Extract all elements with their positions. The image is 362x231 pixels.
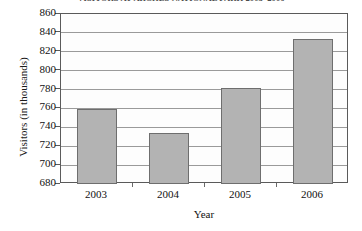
y-tick-label: 720 <box>22 138 56 150</box>
x-tick-mark <box>276 183 277 187</box>
x-tick-label: 2005 <box>204 188 276 200</box>
y-tick-label: 800 <box>22 63 56 75</box>
chart-title: VISITORS AT ARCHES NATIONAL PARK 2003–20… <box>0 0 362 3</box>
x-axis-title: Year <box>60 208 348 220</box>
y-tick-label: 860 <box>22 6 56 18</box>
y-tick-label: 740 <box>22 119 56 131</box>
x-tick-mark <box>204 183 205 187</box>
y-tick-label: 680 <box>22 176 56 188</box>
bar-2005 <box>221 88 261 184</box>
plot-area <box>60 13 348 183</box>
bar-2003 <box>77 109 117 184</box>
y-tick-label: 700 <box>22 157 56 169</box>
x-tick-label: 2003 <box>60 188 132 200</box>
y-tick-label: 780 <box>22 82 56 94</box>
bar-2004 <box>149 133 189 184</box>
bar-chart-screenshot: VISITORS AT ARCHES NATIONAL PARK 2003–20… <box>0 0 362 231</box>
x-tick-mark <box>132 183 133 187</box>
gridline <box>61 32 347 33</box>
y-tick-label: 820 <box>22 44 56 56</box>
x-tick-label: 2006 <box>276 188 348 200</box>
x-tick-label: 2004 <box>132 188 204 200</box>
y-tick-label: 760 <box>22 100 56 112</box>
bar-2006 <box>293 39 333 184</box>
y-tick-label: 840 <box>22 25 56 37</box>
